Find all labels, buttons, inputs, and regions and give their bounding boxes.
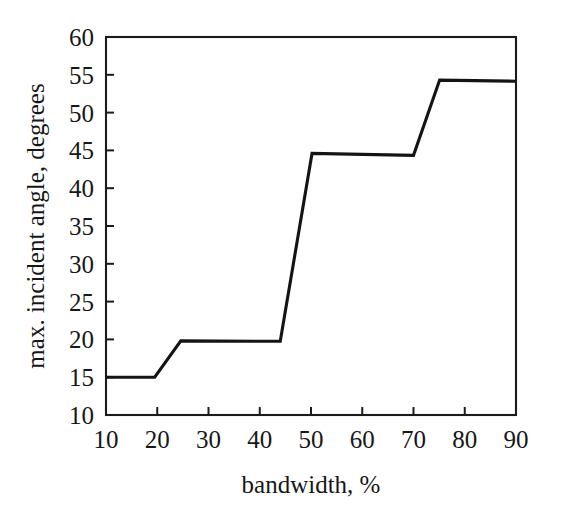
y-tick-label: 60 <box>69 24 94 51</box>
x-tick-label: 60 <box>350 426 375 453</box>
x-tick-label: 80 <box>452 426 477 453</box>
y-tick-label: 30 <box>69 251 94 278</box>
x-tick-label: 40 <box>247 426 272 453</box>
y-tick-label: 40 <box>69 175 94 202</box>
y-tick-label: 10 <box>69 402 94 429</box>
y-tick-label: 20 <box>69 326 94 353</box>
x-tick-label: 10 <box>94 426 119 453</box>
x-tick-label: 50 <box>299 426 324 453</box>
y-tick-label: 55 <box>69 62 94 89</box>
x-tick-label: 90 <box>504 426 529 453</box>
y-tick-label: 50 <box>69 100 94 127</box>
x-tick-label: 30 <box>196 426 221 453</box>
y-tick-label: 35 <box>69 213 94 240</box>
y-tick-label: 25 <box>69 289 94 316</box>
y-axis-tick-labels: 1015202530354045505560 <box>69 24 94 429</box>
y-tick-label: 15 <box>69 364 94 391</box>
x-tick-label: 20 <box>145 426 170 453</box>
chart-figure: 1015202530354045505560 10203040506070809… <box>0 0 563 512</box>
x-axis-tick-labels: 102030405060708090 <box>94 426 529 453</box>
x-axis-title: bandwidth, % <box>242 471 381 498</box>
line-chart-svg: 1015202530354045505560 10203040506070809… <box>0 0 563 512</box>
y-tick-label: 45 <box>69 137 94 164</box>
x-tick-label: 70 <box>401 426 426 453</box>
y-axis-title: max. incident angle, degrees <box>22 83 49 368</box>
